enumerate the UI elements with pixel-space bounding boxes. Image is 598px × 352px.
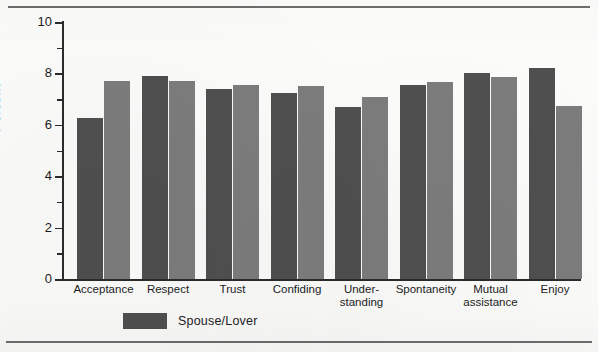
bar-group [335,22,388,279]
y-tick-label: 2 [12,221,52,234]
bar [271,93,297,279]
x-axis-line [62,279,581,281]
bar-group [206,22,259,279]
legend-swatch-spouse-lover [123,313,167,329]
bar-group [400,22,453,279]
bar [556,106,582,279]
bar [142,76,168,279]
y-tick-label: 10 [12,15,52,28]
bar-group [142,22,195,279]
y-axis-title: Percent [0,12,3,132]
category-label: Enjoy [510,283,598,296]
bar [298,86,324,279]
y-tick-major [55,176,63,178]
bar-group [529,22,582,279]
bar [529,68,555,279]
bar [362,97,388,279]
y-tick-major [55,73,63,75]
y-tick-label: 0 [12,272,52,285]
legend-label-spouse-lover: Spouse/Lover [178,314,258,328]
chart-legend: Spouse/Lover [123,313,258,329]
bar [464,73,490,279]
bottom-horizontal-rule [6,341,592,343]
bar [233,85,259,279]
y-tick-label: 8 [12,66,52,79]
bar [335,107,361,279]
bar [206,89,232,279]
y-tick-label: 4 [12,169,52,182]
bar [427,82,453,279]
bar [104,81,130,279]
plot-area [63,22,579,279]
y-tick-major [55,125,63,127]
bar-group [464,22,517,279]
y-tick-major [55,279,63,281]
bar-chart-figure: Percent 0246810 AcceptanceRespectTrustCo… [0,0,598,352]
y-tick-major [55,22,63,24]
bar [169,81,195,279]
bar [400,85,426,279]
bar [77,118,103,279]
bar [491,77,517,279]
top-horizontal-rule [8,6,590,8]
y-tick-label: 6 [12,118,52,131]
bar-group [271,22,324,279]
bar-group [77,22,130,279]
y-tick-major [55,228,63,230]
